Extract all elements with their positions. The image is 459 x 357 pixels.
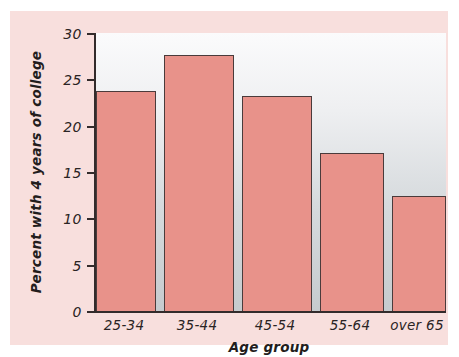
y-axis-title: Percent with 4 years of college xyxy=(26,33,46,311)
bar-0[interactable] xyxy=(96,91,156,311)
x-tick-label-0: 25-34 xyxy=(94,317,154,333)
plot-area: 30 25 20 15 10 5 0 xyxy=(94,33,446,313)
y-tick-25: 25 xyxy=(87,79,96,81)
y-tick-label-5: 5 xyxy=(73,258,82,274)
x-tick-label-1: 35-44 xyxy=(162,317,232,333)
bar-series xyxy=(96,33,446,311)
x-tick-label-4: over 65 xyxy=(390,317,444,333)
y-tick-label-20: 20 xyxy=(63,119,82,135)
bar-4[interactable] xyxy=(392,196,446,311)
y-tick-30: 30 xyxy=(87,33,96,35)
bar-2[interactable] xyxy=(242,96,312,311)
y-tick-label-15: 15 xyxy=(63,165,82,181)
y-tick-label-25: 25 xyxy=(63,72,82,88)
y-tick-10: 10 xyxy=(87,218,96,220)
y-tick-5: 5 xyxy=(87,265,96,267)
bar-1[interactable] xyxy=(164,55,234,311)
y-tick-label-10: 10 xyxy=(63,211,82,227)
x-axis-title: Age group xyxy=(94,339,444,355)
figure: Percent with 4 years of college 30 25 20… xyxy=(0,0,459,357)
figure-card: Percent with 4 years of college 30 25 20… xyxy=(10,11,448,345)
y-tick-15: 15 xyxy=(87,172,96,174)
bar-3[interactable] xyxy=(320,153,384,311)
x-tick-label-2: 45-54 xyxy=(240,317,310,333)
x-tick-label-3: 55-64 xyxy=(318,317,382,333)
y-tick-label-0: 0 xyxy=(73,304,82,320)
y-tick-0: 0 xyxy=(87,311,96,313)
y-tick-20: 20 xyxy=(87,126,96,128)
y-tick-label-30: 30 xyxy=(63,26,82,42)
